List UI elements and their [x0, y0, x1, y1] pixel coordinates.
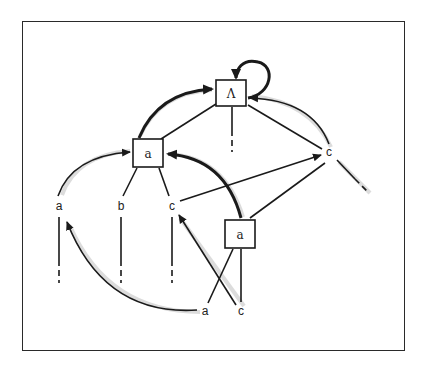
edges [58, 61, 369, 310]
box-lambda: Λ [216, 80, 246, 106]
node-a-left: a [56, 199, 63, 213]
edge-atop-cmid [159, 168, 169, 196]
node-c-mid: c [169, 199, 175, 213]
box-a-low-label: a [236, 228, 243, 242]
box-a-top-label: a [144, 147, 151, 161]
box-lambda-label: Λ [226, 87, 236, 101]
node-b-mid: b [118, 199, 125, 213]
edge-cright-tail [337, 160, 355, 179]
edge-atop-b [123, 168, 137, 196]
edge-lambda-cright [248, 105, 322, 149]
node-c-bottom: c [238, 304, 244, 318]
edge-atop-lambda [161, 104, 216, 139]
node-c-right: c [326, 145, 332, 159]
edge-alow-cright [250, 163, 325, 218]
graph-diagram: Λ a a c a b c a c [0, 0, 429, 369]
node-a-bottom: a [202, 304, 209, 318]
box-a-low: a [225, 220, 255, 248]
edge-cright-lambda [250, 98, 329, 144]
edge-shadows [62, 90, 370, 312]
box-a-top: a [133, 139, 163, 167]
